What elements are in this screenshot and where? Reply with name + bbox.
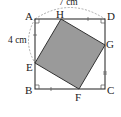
label-c: C — [107, 84, 114, 96]
label-g: G — [106, 38, 114, 50]
label-b: B — [25, 84, 32, 96]
label-e: E — [26, 61, 33, 73]
label-h: H — [56, 8, 64, 20]
geometry-diagram: A H D G E B F C 7 cm 4 cm — [0, 0, 121, 117]
right-angle-b — [35, 85, 39, 89]
right-angle-d — [101, 19, 105, 23]
label-f: F — [75, 91, 81, 103]
label-a: A — [25, 10, 33, 22]
right-angle-c — [101, 85, 105, 89]
measure-ad-label: 7 cm — [59, 0, 78, 7]
label-d: D — [107, 10, 115, 22]
measure-arc-ad — [35, 8, 105, 20]
measure-arc-ae — [29, 19, 36, 63]
right-angle-a — [35, 19, 39, 23]
measure-ae-label: 4 cm — [8, 35, 27, 45]
inner-square-efgh — [35, 19, 105, 89]
